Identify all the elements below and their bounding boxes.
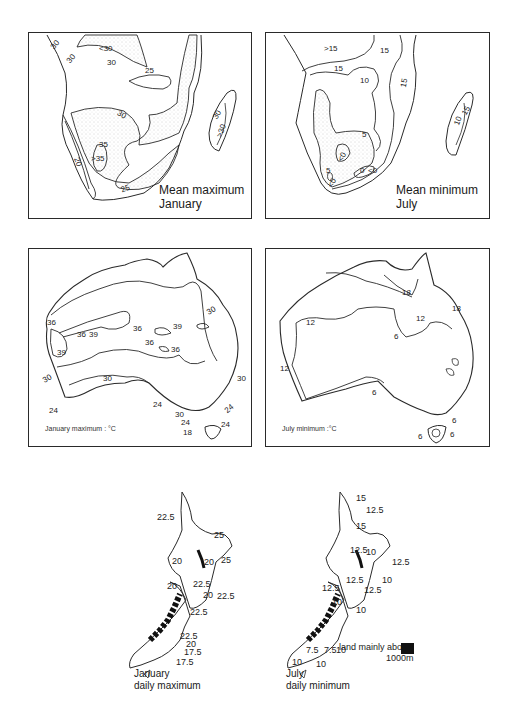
map-caption-line1: Mean minimum [396, 183, 478, 197]
contour-label: 36 [77, 331, 86, 339]
contour-label: 15 [334, 65, 343, 73]
contour-label: 35 [99, 141, 108, 149]
contour-label: 12.5 [322, 584, 340, 593]
contour-label: 36 [171, 346, 180, 354]
contour-label: 10 [292, 658, 302, 667]
contour-label: >35 [91, 155, 105, 163]
australia-jul-min-contours [266, 249, 491, 448]
contour-label: 18 [452, 305, 461, 313]
legend-label-line2: 1000m [386, 654, 414, 663]
contour-label: 17.5 [184, 648, 202, 657]
contour-label: 10 [332, 598, 342, 607]
contour-label: 36 [47, 319, 56, 327]
contour-label: 25 [214, 531, 224, 540]
contour-label: 18 [402, 289, 411, 297]
contour-label: 17.5 [176, 658, 194, 667]
map-panel-africa-july-minimum: >15 15 15 10 15 5 <0 0 <0 5 <0 15 10 Mea… [265, 32, 490, 219]
map-caption-line1: January [134, 668, 170, 680]
contour-label: 15 [400, 78, 409, 88]
contour-label: <30 [99, 45, 113, 53]
contour-label: 24 [153, 401, 162, 409]
contour-label: 10 [316, 660, 326, 669]
map-caption-line2: July [396, 197, 417, 211]
contour-label: 12.5 [350, 546, 368, 555]
contour-label: 10 [382, 576, 392, 585]
map-caption: July minimum :°C [282, 425, 337, 432]
contour-label: 25 [145, 67, 154, 75]
contour-label: 18 [183, 429, 192, 437]
map-caption: January maximum : °C [45, 425, 116, 432]
contour-label: 20 [203, 591, 213, 600]
map-panel-australia-january-maximum: 36 39 36 39 36 39 36 36 30 30 24 30 24 3… [28, 248, 252, 447]
map-caption-line2: January [159, 197, 202, 211]
contour-label: 6 [394, 333, 398, 341]
map-caption-line2: daily minimum [286, 680, 350, 692]
contour-label: 24 [49, 407, 58, 415]
contour-label: 22.5 [217, 592, 235, 601]
contour-label: 22.5 [193, 580, 211, 589]
contour-label: 39 [173, 323, 182, 331]
legend-swatch-high-land [401, 643, 414, 654]
contour-label: 12 [280, 365, 289, 373]
contour-label: 12 [306, 319, 315, 327]
contour-label: 30 [237, 375, 246, 383]
contour-label: 20 [167, 582, 177, 591]
contour-label: 6 [452, 417, 456, 425]
contour-label: 36 [145, 339, 154, 347]
contour-label: <0 [368, 167, 377, 175]
map-panel-australia-july-minimum: 18 18 12 12 6 12 6 6 6 6 July minimum :°… [265, 248, 490, 447]
contour-label: 24 [221, 421, 230, 429]
contour-label: 25 [221, 556, 231, 565]
contour-label: 39 [57, 349, 66, 357]
contour-label: 15 [380, 47, 389, 55]
contour-label: 39 [89, 331, 98, 339]
map-panel-africa-january-maximum: 30 30 <30 30 25 30 35 >35 20 25 30 >30 M… [28, 32, 252, 219]
contour-label: 22.5 [157, 513, 175, 522]
contour-label: 15 [356, 522, 366, 531]
contour-label: 36 [133, 325, 142, 333]
contour-label: 5 [362, 131, 366, 139]
contour-label: 6 [372, 389, 376, 397]
contour-label: 10 [366, 548, 376, 557]
contour-label: 12.5 [364, 586, 382, 595]
contour-label: 24 [181, 419, 190, 427]
map-new-zealand-july-minimum: 15 12.5 15 12.5 10 12.5 12.5 10 12.5 12.… [270, 490, 440, 690]
contour-label: 10 [360, 77, 369, 85]
contour-label: 6 [418, 433, 422, 441]
map-new-zealand-january-maximum: 22.5 25 20 20 25 20 22.5 20 22.5 22.5 22… [120, 490, 260, 690]
contour-label: 20 [204, 558, 214, 567]
map-caption-line1: Mean maximum [159, 183, 244, 197]
contour-label: 12.5 [346, 576, 364, 585]
contour-label: 12.5 [392, 558, 410, 567]
map-caption-line2: daily maximum [134, 680, 201, 692]
contour-label: 30 [103, 375, 112, 383]
contour-label: 12.5 [366, 506, 384, 515]
contour-label: 15 [356, 494, 366, 503]
contour-label: 22.5 [190, 608, 208, 617]
map-caption-line1: July [286, 668, 304, 680]
contour-label: 0 [360, 167, 364, 175]
contour-label: >15 [324, 45, 338, 53]
contour-label: 12 [416, 315, 425, 323]
contour-label: 6 [450, 431, 454, 439]
contour-label: 7.5 [306, 646, 319, 655]
contour-label: 5 [326, 167, 330, 175]
contour-label: 30 [107, 59, 116, 67]
contour-label: 10 [356, 606, 366, 615]
contour-label: 7.5 [324, 646, 337, 655]
contour-label: 20 [172, 557, 182, 566]
